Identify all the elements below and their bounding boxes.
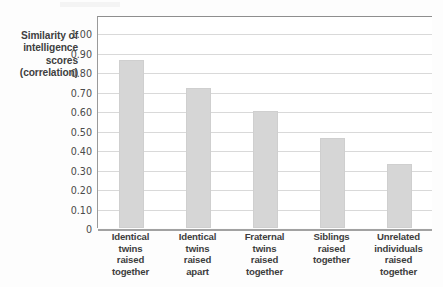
x-axis-category-label-line: raised xyxy=(295,243,369,255)
y-axis-tick-label: 0.80 xyxy=(71,68,92,79)
y-axis-tick-label: 0.30 xyxy=(71,165,92,176)
chart-figure: Similarity of intelligence scores (corre… xyxy=(0,0,443,287)
y-axis-title-line-4: (correlation) xyxy=(4,67,78,79)
x-axis-category-label: Siblingsraisedtogether xyxy=(295,231,369,266)
plot-area: 1.000.900.800.700.600.500.400.300.200.10… xyxy=(97,16,432,228)
bar xyxy=(387,164,412,228)
x-axis-category-label-line: Identical xyxy=(161,231,235,243)
x-axis-category-label-line: twins xyxy=(94,243,168,255)
x-axis-category-label-line: twins xyxy=(228,243,302,255)
x-axis-category-label-line: together xyxy=(295,254,369,266)
bar xyxy=(320,138,345,228)
y-axis-title-line-2: intelligence xyxy=(4,42,78,54)
scan-artifact xyxy=(60,2,120,7)
x-axis-category-label-line: twins xyxy=(161,243,235,255)
y-axis-title: Similarity of intelligence scores (corre… xyxy=(4,30,78,80)
y-axis-tick-label: 1.00 xyxy=(71,29,92,40)
y-axis-title-line-3: scores xyxy=(4,55,78,67)
x-axis-category-label-line: Siblings xyxy=(295,231,369,243)
x-axis-category-label: Fraternaltwinsraisedtogether xyxy=(228,231,302,277)
x-axis-category-label-line: individuals xyxy=(362,243,436,255)
x-axis-category-label-line: together xyxy=(94,266,168,278)
y-axis-tick-label: 0.40 xyxy=(71,146,92,157)
x-axis-category-label: Identicaltwinsraisedapart xyxy=(161,231,235,277)
y-axis-tick-label: 0.70 xyxy=(71,87,92,98)
x-axis-category-label-line: together xyxy=(228,266,302,278)
y-axis-tick-label: 0.10 xyxy=(71,204,92,215)
y-axis-tick-label: 0.50 xyxy=(71,126,92,137)
x-axis-category-label-line: Fraternal xyxy=(228,231,302,243)
bars-group xyxy=(98,34,432,228)
x-axis-labels: IdenticaltwinsraisedtogetherIdenticaltwi… xyxy=(97,231,432,285)
x-axis-category-label-line: raised xyxy=(161,254,235,266)
x-axis-category-label: Unrelatedindividualsraisedtogether xyxy=(362,231,436,277)
x-axis-category-label-line: raised xyxy=(94,254,168,266)
y-axis-tick-label: 0.60 xyxy=(71,107,92,118)
x-axis-category-label-line: apart xyxy=(161,266,235,278)
bar xyxy=(119,60,144,228)
x-axis-category-label-line: Identical xyxy=(94,231,168,243)
y-axis-title-line-1: Similarity of xyxy=(4,30,78,42)
x-axis-category-label-line: raised xyxy=(362,254,436,266)
y-axis-tick-label: 0 xyxy=(86,224,92,235)
bar xyxy=(186,88,211,228)
y-axis-tick-label: 0.90 xyxy=(71,48,92,59)
bar xyxy=(253,111,278,228)
y-axis-tick-label: 0.20 xyxy=(71,185,92,196)
x-axis-category-label-line: Unrelated xyxy=(362,231,436,243)
x-axis-category-label-line: together xyxy=(362,266,436,278)
x-axis-category-label: Identicaltwinsraisedtogether xyxy=(94,231,168,277)
x-axis-category-label-line: raised xyxy=(228,254,302,266)
